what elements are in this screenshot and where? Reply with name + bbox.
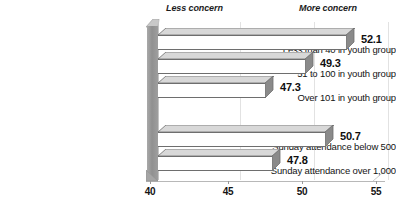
axis-floor-line <box>146 181 385 182</box>
bar-chart: Less concern More concern Less than 40 i… <box>0 0 396 209</box>
chart-caption-more-concern: More concern <box>299 3 357 13</box>
bar-0-value-label: 52.1 <box>361 33 382 45</box>
bar-1: 49.3 <box>158 52 306 67</box>
bar-3-end-cap <box>325 125 334 148</box>
category-label-2: Over 101 in youth group <box>254 92 396 103</box>
bar-2: 47.3 <box>158 76 266 91</box>
tick-mark-40 <box>150 181 151 184</box>
bar-4: 47.8 <box>158 149 273 164</box>
bar-2-value-label: 47.3 <box>280 81 301 93</box>
axis-left-wall <box>147 26 158 181</box>
bar-0-end-cap <box>346 28 355 51</box>
tick-mark-45 <box>228 181 229 184</box>
bar-3: 50.7 <box>158 125 326 140</box>
bar-0-front-face <box>158 35 347 50</box>
tick-mark-50 <box>302 181 303 184</box>
bar-4-value-label: 47.8 <box>287 154 308 166</box>
bar-1-front-face <box>158 59 306 74</box>
bar-4-end-cap <box>272 149 281 172</box>
bar-4-front-face <box>158 156 273 171</box>
tick-label-45: 45 <box>223 186 234 197</box>
tick-mark-55 <box>376 181 377 184</box>
bar-1-value-label: 49.3 <box>320 57 341 69</box>
tick-label-40: 40 <box>145 186 156 197</box>
bar-3-value-label: 50.7 <box>340 130 361 142</box>
bar-1-end-cap <box>305 52 314 75</box>
tick-label-50: 50 <box>297 186 308 197</box>
bar-3-front-face <box>158 132 326 147</box>
chart-caption-less-concern: Less concern <box>166 3 223 13</box>
bar-2-end-cap <box>265 76 274 99</box>
bar-0: 52.1 <box>158 28 347 43</box>
bar-2-front-face <box>158 83 266 98</box>
floor-corner-left <box>146 170 159 182</box>
tick-label-55: 55 <box>371 186 382 197</box>
